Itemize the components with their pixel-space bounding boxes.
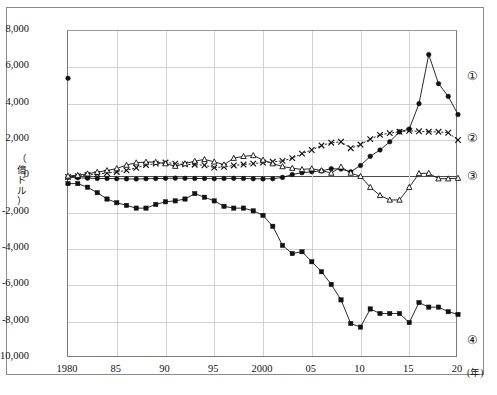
y-tick-label: 4,000: [5, 97, 29, 108]
marker-filled-circle: [426, 52, 431, 57]
x-tick-label: 2000: [240, 363, 284, 374]
marker-filled-square: [134, 206, 138, 210]
marker-cross-x: [416, 128, 422, 134]
marker-filled-square: [95, 190, 99, 194]
series-4: [66, 181, 460, 329]
marker-filled-square: [163, 200, 167, 204]
marker-filled-circle: [290, 172, 295, 177]
marker-filled-circle: [358, 163, 363, 168]
marker-filled-square: [271, 224, 275, 228]
marker-cross-x: [455, 137, 461, 143]
marker-filled-circle: [417, 101, 422, 106]
y-tick-label: 8,000: [5, 24, 29, 35]
marker-filled-circle: [202, 176, 207, 181]
marker-filled-square: [310, 260, 314, 264]
marker-filled-circle: [114, 176, 119, 181]
series-2: [65, 128, 461, 180]
marker-filled-circle: [173, 176, 178, 181]
marker-filled-square: [232, 206, 236, 210]
marker-filled-circle: [280, 175, 285, 180]
marker-cross-x: [309, 147, 315, 153]
marker-cross-x: [387, 130, 393, 136]
x-tick-label: 15: [386, 363, 430, 374]
series-label-1: ①: [467, 70, 478, 82]
marker-cross-x: [348, 145, 354, 151]
marker-filled-circle: [436, 81, 441, 86]
y-axis-title-char-3: ル: [14, 186, 30, 197]
y-tick-label: -6,000: [2, 278, 29, 289]
marker-filled-square: [417, 300, 421, 304]
marker-filled-circle: [251, 176, 256, 181]
marker-open-triangle: [260, 157, 265, 162]
marker-filled-circle: [222, 176, 227, 181]
marker-cross-x: [367, 136, 373, 142]
marker-open-triangle: [251, 153, 256, 158]
marker-filled-circle: [456, 112, 461, 117]
marker-open-triangle: [338, 164, 343, 169]
x-tick-label: 95: [191, 363, 235, 374]
marker-cross-x: [133, 165, 139, 171]
figure-root: （ 億 ド ル ） 8,0006,0004,0002,0000-2,000-4,…: [0, 0, 497, 395]
y-tick-label: 0: [24, 169, 29, 180]
marker-filled-square: [76, 181, 80, 185]
marker-filled-circle: [368, 154, 373, 159]
marker-open-triangle: [202, 157, 207, 162]
marker-filled-square: [212, 199, 216, 203]
marker-filled-square: [388, 311, 392, 315]
marker-filled-square: [427, 305, 431, 309]
series-label-4: ④: [467, 334, 478, 346]
marker-filled-square: [378, 311, 382, 315]
x-tick-label: 05: [289, 363, 333, 374]
marker-filled-square: [115, 200, 119, 204]
marker-filled-square: [251, 209, 255, 213]
marker-filled-square: [193, 191, 197, 195]
marker-filled-square: [446, 309, 450, 313]
series-label-2: ②: [467, 132, 478, 144]
marker-cross-x: [202, 162, 208, 168]
marker-filled-square: [456, 312, 460, 316]
x-axis-title: (年): [467, 365, 483, 379]
marker-filled-circle: [144, 176, 149, 181]
marker-cross-x: [358, 142, 364, 148]
marker-filled-square: [124, 203, 128, 207]
marker-filled-circle: [124, 177, 129, 182]
x-tick-label: 10: [338, 363, 382, 374]
y-tick-label: 6,000: [5, 60, 29, 71]
marker-cross-x: [319, 143, 325, 149]
marker-cross-x: [124, 168, 130, 174]
marker-filled-circle: [378, 148, 383, 153]
marker-filled-circle: [231, 176, 236, 181]
marker-filled-square: [105, 197, 109, 201]
marker-filled-square: [368, 307, 372, 311]
marker-filled-circle: [212, 176, 217, 181]
figure-border: （ 億 ド ル ） 8,0006,0004,0002,0000-2,000-4,…: [6, 7, 484, 375]
marker-filled-circle: [95, 176, 100, 181]
plot-area: [67, 30, 457, 357]
marker-filled-square: [183, 197, 187, 201]
marker-cross-x: [436, 129, 442, 135]
marker-filled-circle: [163, 176, 168, 181]
marker-filled-circle: [261, 177, 266, 182]
marker-open-triangle: [309, 166, 314, 171]
marker-filled-square: [66, 181, 70, 185]
marker-filled-square: [358, 325, 362, 329]
marker-filled-square: [300, 250, 304, 254]
y-axis-title-char-0: （: [14, 154, 30, 165]
x-tick-label: 90: [143, 363, 187, 374]
marker-filled-square: [280, 243, 284, 247]
marker-filled-square: [319, 270, 323, 274]
series-label-3: ③: [467, 170, 478, 182]
marker-cross-x: [338, 139, 344, 145]
marker-filled-square: [349, 321, 353, 325]
marker-filled-circle: [446, 94, 451, 99]
y-tick-label: 2,000: [5, 133, 29, 144]
marker-filled-circle: [241, 176, 246, 181]
bottom-note: [8, 381, 468, 390]
marker-filled-square: [397, 311, 401, 315]
marker-filled-square: [329, 282, 333, 286]
marker-filled-circle: [270, 176, 275, 181]
marker-filled-circle: [66, 76, 71, 81]
y-tick-label: -10,000: [0, 351, 29, 362]
marker-filled-square: [261, 213, 265, 217]
x-tick-label: 85: [94, 363, 138, 374]
